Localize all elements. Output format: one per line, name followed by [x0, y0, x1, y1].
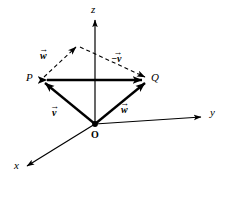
point-label-Q: Q — [151, 72, 159, 83]
origin-dot — [92, 121, 98, 127]
diagram-canvas — [0, 0, 230, 199]
vector-label-negative-v: → −v — [111, 53, 122, 64]
vector-letter: w — [40, 50, 47, 61]
x-axis-line — [27, 124, 95, 166]
z-axis-label: z — [91, 4, 95, 15]
y-axis-line — [95, 117, 201, 124]
vector-label-w-origin-Q: → w — [121, 104, 128, 115]
vector-label-v-origin-P: → v — [52, 107, 56, 118]
vector-letter: v — [117, 53, 121, 64]
y-axis-label: y — [210, 107, 215, 118]
point-label-origin: O — [91, 130, 99, 140]
vector-letter: v — [52, 107, 56, 118]
w-dashed-line — [44, 47, 76, 77]
axis-y — [95, 117, 201, 124]
vector-label-w-P-apex: → w — [40, 50, 47, 61]
axis-x — [27, 124, 95, 166]
x-axis-label: x — [14, 160, 19, 171]
vector-diagram-figure: z y x P Q O → v → w → w → −v — [0, 0, 230, 199]
vector-letter: w — [121, 104, 128, 115]
dashed-vector-w-P-to-apex — [44, 47, 76, 77]
point-label-P: P — [26, 72, 33, 83]
